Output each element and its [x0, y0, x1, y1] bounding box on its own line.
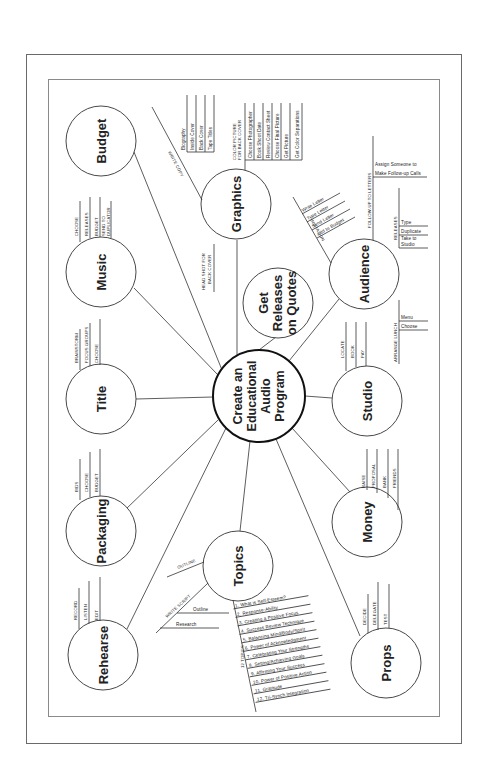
money-branch-proposal: PROPOSAL: [371, 463, 376, 488]
topics-write-script-item-research: Research: [176, 622, 197, 627]
center-label-line-1: Create an: [231, 368, 245, 425]
graphics-write-copy-item-2: Inside Cover: [190, 123, 195, 150]
node-music[interactable]: Music CHOOSE RELEASES BUDGET SEND TO DUP…: [66, 197, 136, 307]
node-audience-label: Audience: [357, 245, 372, 304]
props-branch-decide: DECIDE: [362, 608, 367, 625]
center-label-line-2: Educational: [245, 361, 259, 432]
node-studio-label: Studio: [360, 381, 375, 421]
node-packaging-label: Packaging: [94, 498, 109, 563]
audience-follow-up-item-1: Assign Someone to: [375, 162, 417, 167]
node-money-label: Money: [360, 501, 375, 543]
music-branches: CHOOSE RELEASES BUDGET SEND TO DUPLICATO…: [74, 197, 111, 242]
graphics-color-picture-item-4: Choose Final Picture: [275, 113, 280, 158]
topics-write-script-label: WRITE SCRIPT: [164, 593, 192, 619]
mind-map: Create an Educational Audio Program Budg…: [0, 0, 484, 782]
title-branch-focus-groups: FOCUS GROUPS: [84, 327, 89, 363]
audience-arrange-lunch-label: ARRANGE LUNCH: [393, 323, 398, 362]
graphics-write-copy-item-1: Biography: [181, 128, 186, 150]
audience-follow-up-label: FOLLOW-UP TO LETTERS: [367, 172, 372, 228]
node-topics[interactable]: Topics OUTLINE WRITE SCRIPT Outline Rese…: [156, 531, 330, 712]
audience-releases-item-type: Type: [401, 220, 412, 225]
center-label-line-4: Program: [273, 370, 287, 421]
audience-follow-up-item-2: Make Follow-up Calls: [375, 171, 422, 176]
title-branch-brainstorm: BRAINSTORM: [74, 333, 79, 363]
music-branch-budget: BUDGET: [94, 217, 99, 236]
graphics-head-shot-label-2: BACK COVER: [207, 255, 212, 284]
graphics-color-picture-item-1: Choose Photographer: [248, 111, 253, 158]
graphics-color-picture: COLOR PICTURE FOR BACK COVER Choose Phot…: [232, 103, 302, 170]
node-title[interactable]: Title BRAINSTORM FOCUS GROUPS CHOOSE: [66, 319, 136, 434]
node-graphics[interactable]: Graphics WRITE COPY Biography Inside Cov…: [152, 95, 302, 292]
graphics-color-picture-item-2: Book Shoot Date: [257, 121, 262, 158]
topic-item-11: 11. Gratitude: [255, 684, 283, 694]
node-props[interactable]: Props DECIDE DELEGATE TEST: [351, 582, 421, 698]
node-music-label: Music: [94, 254, 109, 291]
graphics-write-copy: WRITE COPY Biography Inside Cover Back C…: [152, 95, 214, 200]
graphics-color-picture-item-5: Get Picture: [284, 134, 289, 158]
node-get-releases-line-3: on Quotes: [284, 271, 299, 335]
audience-arrange-lunch: ARRANGE LUNCH Menu Choose: [393, 300, 428, 364]
topics-write-script-item-outline: Outline: [193, 607, 209, 612]
node-rehearse-label: Rehearse: [96, 626, 111, 685]
node-money[interactable]: Money RAISE PROPOSAL BANK FRIENDS: [332, 449, 402, 557]
packaging-branch-bids: BIDS: [74, 481, 79, 492]
node-rehearse[interactable]: Rehearse RECORD LISTEN EDIT: [68, 577, 138, 690]
graphics-write-copy-item-4: Tape Titles: [208, 126, 213, 150]
audience-releases-item-studio: Studio: [401, 242, 415, 247]
node-audience[interactable]: Audience INVITATION Write Letter Type Le…: [293, 136, 428, 364]
title-branch-choose: CHOOSE: [94, 344, 99, 363]
node-packaging[interactable]: Packaging BIDS CHOOSE BUDGET: [66, 449, 136, 566]
packaging-branches: BIDS CHOOSE BUDGET: [74, 449, 100, 500]
rehearse-branch-record: RECORD: [73, 601, 78, 620]
audience-releases-label: RELEASES: [393, 216, 398, 240]
node-studio[interactable]: Studio LOCATE BOOK PAY: [332, 322, 402, 436]
graphics-write-copy-item-3: Back Cover: [199, 125, 204, 150]
center-node[interactable]: Create an Educational Audio Program: [213, 350, 305, 442]
props-branch-test: TEST: [383, 613, 388, 625]
studio-branch-pay: PAY: [360, 350, 365, 358]
node-budget-label: Budget: [94, 118, 109, 163]
props-branch-delegate: DELEGATE: [372, 601, 377, 625]
music-branch-releases: RELEASES: [84, 212, 89, 236]
topics-outline-label: OUTLINE: [177, 558, 197, 570]
node-get-releases-line-2: Releases: [270, 275, 285, 331]
graphics-head-shot: HEAD SHOT FOR BACK COVER: [201, 244, 214, 292]
center-label-line-3: Audio: [259, 378, 273, 414]
title-branches: BRAINSTORM FOCUS GROUPS CHOOSE: [74, 319, 100, 370]
rehearse-branch-listen: LISTEN: [83, 604, 88, 620]
money-branch-raise: RAISE: [361, 474, 366, 488]
packaging-branch-budget: BUDGET: [94, 473, 99, 492]
node-graphics-label: Graphics: [229, 176, 244, 232]
audience-arrange-lunch-item-menu: Menu: [401, 315, 413, 320]
studio-branch-book: BOOK: [350, 345, 355, 358]
music-branch-duplicator: DUPLICATOR: [106, 207, 111, 236]
studio-branches: LOCATE BOOK PAY: [340, 322, 366, 371]
node-title-label: Title: [94, 386, 109, 413]
node-topics-label: Topics: [231, 546, 246, 587]
node-get-releases[interactable]: Get Releases on Quotes: [243, 268, 313, 338]
rehearse-branch-edit: EDIT: [94, 609, 99, 620]
graphics-color-picture-item-6: Get Color Separations: [295, 110, 300, 158]
topics-list: 12 TOPICS 1. What is Self-Esteem? 2. Res…: [233, 591, 331, 712]
page: Create an Educational Audio Program Budg…: [0, 0, 484, 782]
money-branch-bank: BANK: [382, 476, 387, 488]
node-props-label: Props: [379, 645, 394, 682]
graphics-head-shot-label-1: HEAD SHOT FOR: [201, 253, 206, 290]
graphics-color-picture-label-2: FOR BACK COVER: [237, 120, 242, 160]
node-budget[interactable]: Budget: [66, 106, 136, 176]
topics-outline: OUTLINE: [167, 558, 204, 577]
audience-releases-item-duplicate: Duplicate: [401, 229, 421, 234]
audience-arrange-lunch-item-choose: Choose: [401, 324, 418, 329]
node-get-releases-line-1: Get: [256, 291, 271, 313]
money-branch-friends: FRIENDS: [392, 468, 397, 488]
music-branch-choose: CHOOSE: [74, 217, 79, 236]
graphics-color-picture-item-3: Review Contact Sheet: [266, 110, 271, 158]
audience-releases: RELEASES Type Duplicate Take to Studio: [393, 188, 428, 248]
studio-branch-locate: LOCATE: [340, 340, 345, 358]
props-branches: DECIDE DELEGATE TEST: [362, 582, 389, 633]
packaging-branch-choose: CHOOSE: [84, 473, 89, 492]
audience-releases-item-take-to: Take to: [401, 236, 417, 241]
